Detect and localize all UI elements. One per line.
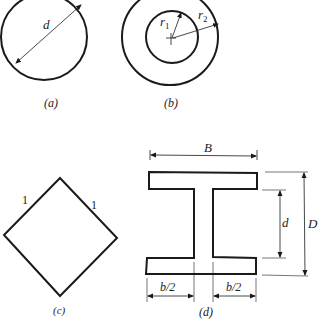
panel-d: B D d b/2 b/2 (d) [146,140,318,319]
cross-sections-figure: d (a) r1 r2 (b) 1 1 (c) B D [0,0,324,327]
web-depth-d-label: d [282,215,289,230]
width-B-label: B [204,140,212,155]
depth-D-label: D [307,216,318,231]
depth-D-arrow [304,173,305,275]
caption-d: (d) [199,305,213,319]
i-beam-outline [146,172,257,274]
caption-a: (a) [44,96,58,110]
r1-arrow [172,13,181,38]
half-width-left-label: b/2 [160,280,175,294]
r1-label: r1 [160,14,170,31]
D-extension-bottom [262,275,308,276]
panel-b: r1 r2 (b) [122,0,218,110]
width-B-arrow [151,155,256,156]
half-width-right-label: b/2 [226,280,241,294]
side-label-right: 1 [91,198,97,212]
r2-label: r2 [198,7,208,24]
caption-b: (b) [164,96,178,110]
diameter-label: d [43,17,50,32]
caption-c: (c) [53,304,66,317]
outer-circle [122,0,218,85]
panel-c: 1 1 (c) [4,178,117,317]
side-label-left: 1 [22,193,28,207]
panel-a: d (a) [1,0,87,110]
circle-section [1,0,87,80]
diameter-arrow [16,5,81,63]
diamond-section [4,178,117,296]
